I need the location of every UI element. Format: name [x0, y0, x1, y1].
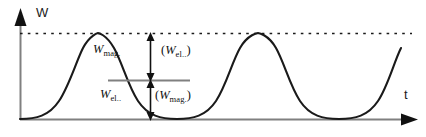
energy-oscillation-figure: W t Wmag. (Wel..) Wel.. (Wmag.) [0, 0, 426, 137]
label-symbol: W [100, 87, 110, 101]
label-symbol: W [159, 88, 169, 102]
y-axis-arrowhead-icon [15, 8, 27, 26]
label-symbol: W [93, 42, 103, 56]
x-axis-arrowhead-icon [401, 114, 418, 126]
label-subscript: mag. [103, 48, 120, 58]
energy-curve [20, 33, 401, 119]
close-paren: ) [186, 43, 190, 57]
label-w-magnetic-upper: Wmag. [93, 43, 121, 56]
y-axis-label: W [36, 6, 48, 19]
label-w-electric-parenthesized: (Wel..) [161, 44, 191, 57]
x-axis-label: t [404, 88, 408, 101]
label-symbol: W [165, 43, 175, 57]
label-subscript: el.. [176, 49, 187, 59]
label-subscript: mag. [170, 94, 187, 104]
figure-canvas [0, 0, 426, 137]
label-w-electric-lower: Wel.. [100, 88, 121, 101]
label-w-magnetic-parenthesized: (Wmag.) [155, 89, 191, 102]
close-paren: ) [187, 88, 191, 102]
label-subscript: el.. [110, 93, 121, 103]
